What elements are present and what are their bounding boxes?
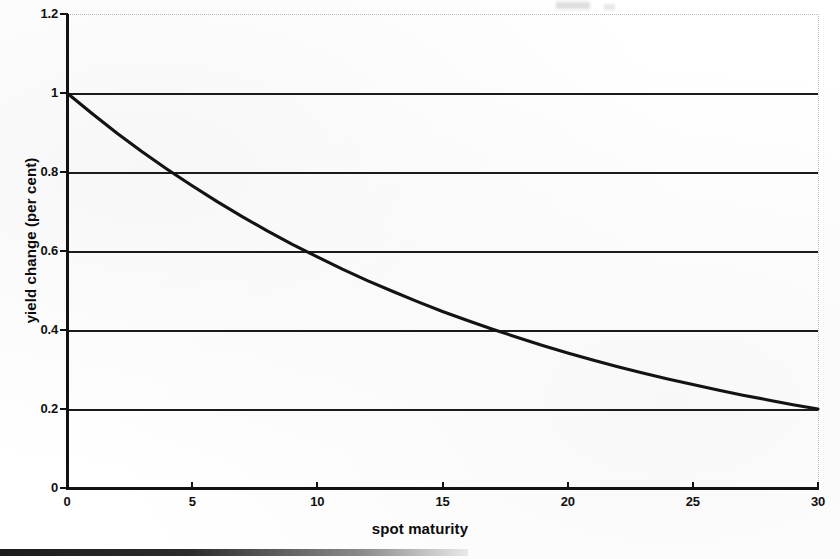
line-chart: 00.20.40.60.811.2 051015202530 spot matu… [0, 0, 840, 559]
x-axis-title: spot maturity [0, 520, 840, 537]
scan-artifact-bottom-bar [0, 549, 468, 556]
y-axis-title: yield change (per cent) [22, 81, 39, 401]
figure-page: 00.20.40.60.811.2 051015202530 spot matu… [0, 0, 840, 559]
data-curve-layer [0, 0, 840, 559]
series-line-yield-change [67, 93, 818, 409]
